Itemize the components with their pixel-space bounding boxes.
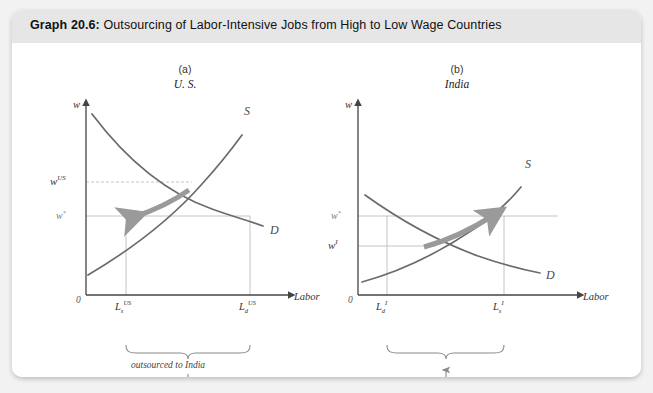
panel-india — [358, 105, 578, 359]
supply-label-india: S — [525, 157, 531, 172]
figure-title: Graph 20.6: Outsourcing of Labor-Intensi… — [30, 18, 502, 32]
x-axis-label-india: Labor — [583, 291, 609, 302]
brace-us — [126, 345, 250, 359]
labor-right-label-india: LsI — [493, 299, 504, 314]
labor-right-label-us: LdUS — [239, 299, 256, 314]
demand-curve-india — [365, 195, 540, 273]
panel-header-a: (a) U. S. — [125, 63, 245, 90]
figure-drawing — [12, 43, 641, 377]
labor-left-label-india: LdI — [376, 299, 387, 314]
demand-label-us: D — [270, 223, 279, 238]
origin-label-india: 0 — [348, 295, 353, 305]
x-axis-label-us: Labor — [294, 291, 320, 302]
brace-india — [387, 345, 504, 359]
wage-high-label-us: wUS — [50, 174, 66, 187]
panel-tag-b: (b) — [397, 63, 517, 75]
movement-arrow-us — [134, 190, 189, 217]
page-background: Graph 20.6: Outsourcing of Labor-Intensi… — [0, 0, 653, 393]
figure-card: Graph 20.6: Outsourcing of Labor-Intensi… — [12, 10, 641, 377]
labor-left-label-us: LsUS — [115, 299, 131, 314]
demand-label-india: D — [546, 268, 555, 283]
brace-caption-us: outsourced to India — [131, 360, 205, 370]
y-axis-label-india: w — [345, 99, 352, 110]
panel-tag-a: (a) — [125, 63, 245, 75]
panel-country-b: India — [397, 78, 517, 90]
connector-line — [188, 370, 446, 377]
y-axis-label-us: w — [73, 99, 80, 110]
movement-arrow-india — [424, 215, 494, 247]
panel-country-a: U. S. — [125, 78, 245, 90]
wage-low-label-us: w* — [56, 209, 66, 221]
figure-label: Graph 20.6: — [30, 18, 100, 32]
wage-high-label-india: w* — [331, 209, 341, 221]
plot-area: (a) U. S. (b) India — [12, 43, 641, 377]
panel-header-b: (b) India — [397, 63, 517, 90]
figure-title-text: Outsourcing of Labor-Intensive Jobs from… — [100, 18, 502, 32]
supply-curve-india — [362, 187, 521, 282]
panel-us — [86, 105, 446, 377]
wage-low-label-india: wI — [328, 238, 338, 251]
supply-label-us: S — [244, 104, 250, 119]
origin-label-us: 0 — [76, 295, 81, 305]
